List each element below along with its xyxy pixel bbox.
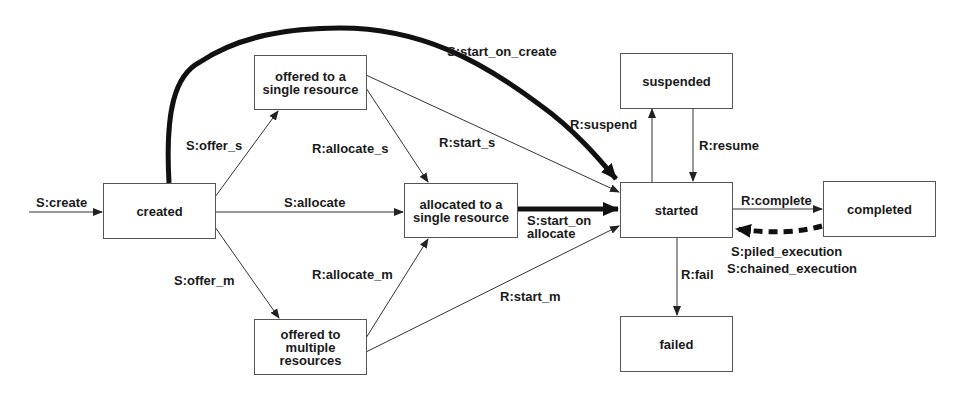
edge-offer-s	[215, 111, 278, 197]
label-resume: R:resume	[699, 139, 759, 152]
label-chained-execution: S:chained_execution	[727, 262, 857, 275]
label-start-s: R:start_s	[439, 136, 495, 149]
state-offered-multiple: offered to multiple resources	[254, 319, 367, 375]
label-start-on-create: S:start_on_create	[447, 45, 557, 58]
state-failed: failed	[620, 316, 733, 372]
label-create: S:create	[36, 196, 87, 209]
state-completed: completed	[823, 181, 936, 237]
state-label: suspended	[642, 75, 711, 88]
label-allocate: S:allocate	[284, 196, 345, 209]
state-label: allocated to a	[419, 198, 502, 211]
state-suspended: suspended	[620, 53, 733, 109]
state-label: completed	[847, 203, 912, 216]
state-label: multiple	[286, 341, 336, 354]
state-label: single resource	[262, 83, 358, 96]
edge-allocate-m	[366, 239, 428, 338]
label-allocate-m: R:allocate_m	[312, 268, 393, 281]
label-allocate-s: R:allocate_s	[312, 142, 389, 155]
edge-start-m	[366, 226, 619, 352]
label-offer-m: S:offer_m	[174, 274, 235, 287]
label-offer-s: S:offer_s	[186, 139, 242, 152]
label-fail: R:fail	[681, 268, 714, 281]
state-label: single resource	[413, 211, 509, 224]
label-start-m: R:start_m	[500, 290, 561, 303]
label-start-on-allocate-2: allocate	[527, 227, 575, 240]
state-label: offered to	[281, 328, 341, 341]
state-label: resources	[279, 354, 341, 367]
state-label: started	[655, 204, 698, 217]
edge-piled-chained-execution	[736, 226, 822, 232]
state-created: created	[103, 183, 216, 239]
label-complete: R:complete	[741, 194, 812, 207]
edge-allocate-s	[366, 88, 428, 182]
edge-start-s	[366, 75, 619, 192]
state-label: failed	[660, 338, 694, 351]
state-started: started	[620, 182, 733, 238]
label-piled-execution: S:piled_execution	[731, 245, 842, 258]
state-offered-single: offered to a single resource	[254, 55, 367, 110]
state-allocated: allocated to a single resource	[404, 183, 518, 238]
state-label: offered to a	[275, 70, 346, 83]
label-suspend: R:suspend	[570, 118, 637, 131]
state-label: created	[136, 205, 182, 218]
